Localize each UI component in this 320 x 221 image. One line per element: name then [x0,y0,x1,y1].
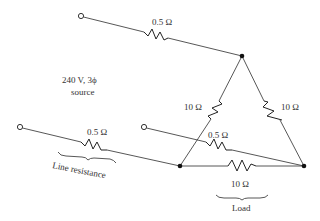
label-line-top: 0.5 Ω [152,17,173,27]
terminal-left [17,124,22,129]
resistor-line-middle [206,139,232,150]
source-label-1: 240 V, 3ϕ [62,75,97,85]
node-top [240,54,245,59]
wire-middle-2 [232,150,304,166]
label-line-left: 0.5 Ω [87,127,108,137]
brace-load [216,195,268,200]
resistor-load-left [208,101,222,119]
label-load-bottom: 10 Ω [231,179,249,189]
label-line-resistance: Line resistance [52,160,107,180]
circuit-diagram: 0.5 Ω 240 V, 3ϕ source 0.5 Ω Line resist… [0,0,320,221]
terminal-top [78,13,83,18]
resistor-line-top [144,29,168,40]
source-label-2: source [71,87,95,97]
wire-delta-right-2 [280,120,304,166]
label-load-left: 10 Ω [184,102,202,112]
resistor-line-left [81,139,107,150]
terminal-middle [141,124,146,129]
node-bottom-left [178,164,183,169]
label-load: Load [232,203,251,213]
node-bottom-right [302,164,307,169]
wire-top-1 [84,17,145,32]
brace-line-resistance [58,152,116,163]
wire-delta-right-1 [242,56,264,101]
wire-left-1 [23,128,82,142]
label-load-right: 10 Ω [281,102,299,112]
wire-top-2 [168,38,242,56]
label-line-middle: 0.5 Ω [208,130,229,140]
wire-left-2 [107,150,180,166]
resistor-load-bottom [228,160,256,171]
wire-delta-left-1 [219,56,242,101]
resistor-load-right [263,101,282,120]
